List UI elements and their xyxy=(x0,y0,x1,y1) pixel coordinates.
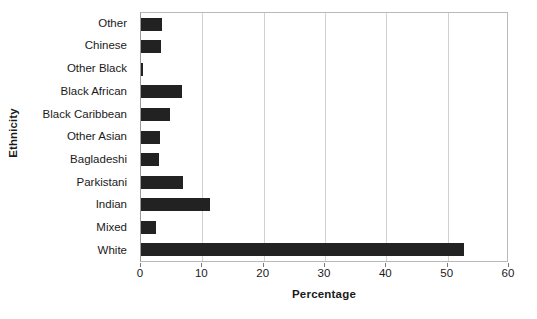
bar-row xyxy=(141,193,507,216)
x-tick-label: 0 xyxy=(137,268,143,280)
bar-row xyxy=(141,171,507,194)
bar xyxy=(141,40,161,53)
y-tick-label: Black African xyxy=(26,80,134,103)
x-axis-title: Percentage xyxy=(140,288,508,300)
bar-row xyxy=(141,13,507,36)
bar-row xyxy=(141,36,507,59)
y-axis-title-text: Ethnicity xyxy=(7,108,19,157)
bar xyxy=(141,176,183,189)
bar-row xyxy=(141,238,507,261)
bar xyxy=(141,63,143,76)
y-tick-label: Chinese xyxy=(26,35,134,58)
bar-row xyxy=(141,81,507,104)
x-tick-label: 10 xyxy=(195,268,208,280)
y-tick-label: White xyxy=(26,239,134,262)
bar xyxy=(141,198,210,211)
bar-row xyxy=(141,126,507,149)
y-tick-label: Bagladeshi xyxy=(26,148,134,171)
plot-area xyxy=(140,12,508,262)
bar-series xyxy=(141,13,507,261)
bar-row xyxy=(141,58,507,81)
bar-row xyxy=(141,103,507,126)
bar-row xyxy=(141,148,507,171)
x-axis-ticks: 0102030405060 xyxy=(140,263,508,283)
bar xyxy=(141,221,156,234)
x-tick-label: 50 xyxy=(440,268,453,280)
bar xyxy=(141,243,464,256)
y-tick-label: Parkistani xyxy=(26,171,134,194)
x-tick-label: 20 xyxy=(256,268,269,280)
y-tick-label: Mixed xyxy=(26,217,134,240)
y-axis-title: Ethnicity xyxy=(0,0,26,265)
bar xyxy=(141,18,162,31)
bar xyxy=(141,153,159,166)
y-tick-label: Other xyxy=(26,12,134,35)
bar xyxy=(141,131,160,144)
bar-row xyxy=(141,216,507,239)
y-tick-label: Indian xyxy=(26,194,134,217)
y-tick-label: Other Asian xyxy=(26,126,134,149)
bar xyxy=(141,85,182,98)
y-axis-tick-labels: OtherChineseOther BlackBlack AfricanBlac… xyxy=(26,12,134,262)
x-tick-label: 60 xyxy=(502,268,515,280)
x-tick-label: 30 xyxy=(318,268,331,280)
x-tick-label: 40 xyxy=(379,268,392,280)
y-tick-label: Other Black xyxy=(26,57,134,80)
bar xyxy=(141,108,170,121)
bar-chart: Ethnicity OtherChineseOther BlackBlack A… xyxy=(0,0,537,319)
y-tick-label: Black Caribbean xyxy=(26,103,134,126)
